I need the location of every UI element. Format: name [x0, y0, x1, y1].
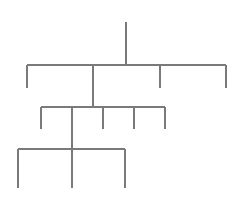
- tree-edges: [18, 22, 226, 188]
- tree-diagram: [0, 0, 239, 205]
